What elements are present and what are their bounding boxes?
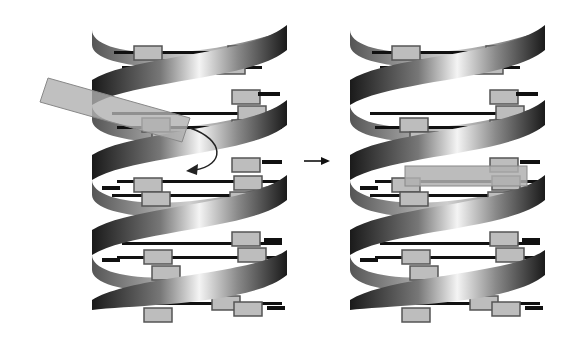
right-arrow-icon (304, 157, 330, 165)
helix-before (92, 25, 287, 322)
intercalated-molecule (405, 166, 527, 186)
helix-after (350, 25, 545, 322)
dna-diagram (0, 0, 574, 337)
